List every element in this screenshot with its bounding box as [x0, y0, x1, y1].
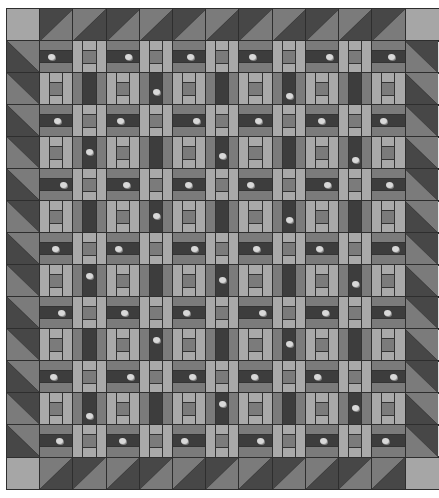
print-block-horizontal: [40, 233, 73, 265]
border-top-unit: [107, 9, 140, 41]
ladder-block: [173, 329, 206, 361]
border-top-unit: [273, 9, 306, 41]
ladder-block: [107, 201, 140, 233]
ladder-block: [273, 41, 306, 73]
print-block-vertical: [140, 329, 173, 361]
border-top-unit: [372, 9, 405, 41]
border-right-unit: [405, 137, 438, 169]
print-block-horizontal: [173, 297, 206, 329]
print-block-horizontal: [173, 233, 206, 265]
border-top-unit: [73, 9, 106, 41]
border-bottom-unit: [339, 457, 372, 489]
print-block-vertical: [339, 329, 372, 361]
border-top-unit: [40, 9, 73, 41]
print-block-horizontal: [40, 169, 73, 201]
ladder-block: [239, 393, 272, 425]
ladder-block: [372, 137, 405, 169]
print-block-vertical: [273, 329, 306, 361]
print-block-horizontal: [372, 425, 405, 457]
print-block-vertical: [140, 201, 173, 233]
border-top-unit: [339, 9, 372, 41]
border-left-unit: [7, 425, 40, 457]
border-left-unit: [7, 41, 40, 73]
ladder-block: [140, 297, 173, 329]
ladder-block: [306, 329, 339, 361]
print-block-horizontal: [372, 169, 405, 201]
ladder-block: [40, 265, 73, 297]
border-bottom-unit: [73, 457, 106, 489]
border-left-unit: [7, 201, 40, 233]
border-right-unit: [405, 393, 438, 425]
corner-square-bottom-left: [7, 457, 40, 489]
print-block-horizontal: [306, 105, 339, 137]
ladder-block: [107, 73, 140, 105]
ladder-block: [73, 169, 106, 201]
border-bottom-unit: [173, 457, 206, 489]
ladder-block: [372, 329, 405, 361]
border-left-unit: [7, 297, 40, 329]
ladder-block: [73, 41, 106, 73]
print-block-vertical: [206, 393, 239, 425]
ladder-block: [239, 73, 272, 105]
ladder-block: [73, 105, 106, 137]
print-block-vertical: [273, 265, 306, 297]
border-top-unit: [306, 9, 339, 41]
ladder-block: [339, 361, 372, 393]
print-block-horizontal: [306, 297, 339, 329]
print-block-vertical: [140, 73, 173, 105]
print-block-vertical: [273, 73, 306, 105]
print-block-vertical: [339, 265, 372, 297]
print-block-vertical: [339, 137, 372, 169]
print-block-vertical: [73, 329, 106, 361]
ladder-block: [107, 137, 140, 169]
ladder-block: [339, 297, 372, 329]
print-block-vertical: [206, 329, 239, 361]
ladder-block: [140, 425, 173, 457]
ladder-block: [273, 169, 306, 201]
border-right-unit: [405, 233, 438, 265]
print-block-vertical: [140, 265, 173, 297]
ladder-block: [73, 425, 106, 457]
ladder-block: [107, 265, 140, 297]
ladder-block: [339, 169, 372, 201]
border-left-unit: [7, 169, 40, 201]
print-block-horizontal: [107, 361, 140, 393]
print-block-vertical: [140, 393, 173, 425]
ladder-block: [73, 297, 106, 329]
border-bottom-unit: [239, 457, 272, 489]
border-left-unit: [7, 393, 40, 425]
border-right-unit: [405, 201, 438, 233]
quilt-canvas: [7, 9, 438, 489]
print-block-horizontal: [306, 169, 339, 201]
ladder-block: [339, 41, 372, 73]
ladder-block: [107, 329, 140, 361]
border-left-unit: [7, 137, 40, 169]
ladder-block: [339, 105, 372, 137]
border-right-unit: [405, 41, 438, 73]
print-block-horizontal: [372, 361, 405, 393]
print-block-horizontal: [306, 233, 339, 265]
print-block-vertical: [73, 73, 106, 105]
ladder-block: [40, 201, 73, 233]
print-block-vertical: [273, 393, 306, 425]
ladder-block: [372, 73, 405, 105]
ladder-block: [239, 265, 272, 297]
ladder-block: [206, 297, 239, 329]
border-top-unit: [140, 9, 173, 41]
ladder-block: [273, 425, 306, 457]
corner-square-top-left: [7, 9, 40, 41]
border-right-unit: [405, 265, 438, 297]
border-bottom-unit: [372, 457, 405, 489]
print-block-vertical: [206, 265, 239, 297]
ladder-block: [339, 425, 372, 457]
print-block-horizontal: [40, 41, 73, 73]
ladder-block: [40, 393, 73, 425]
border-left-unit: [7, 233, 40, 265]
ladder-block: [107, 393, 140, 425]
ladder-block: [140, 41, 173, 73]
print-block-horizontal: [107, 105, 140, 137]
ladder-block: [273, 297, 306, 329]
print-block-horizontal: [107, 425, 140, 457]
ladder-block: [372, 265, 405, 297]
print-block-horizontal: [239, 297, 272, 329]
